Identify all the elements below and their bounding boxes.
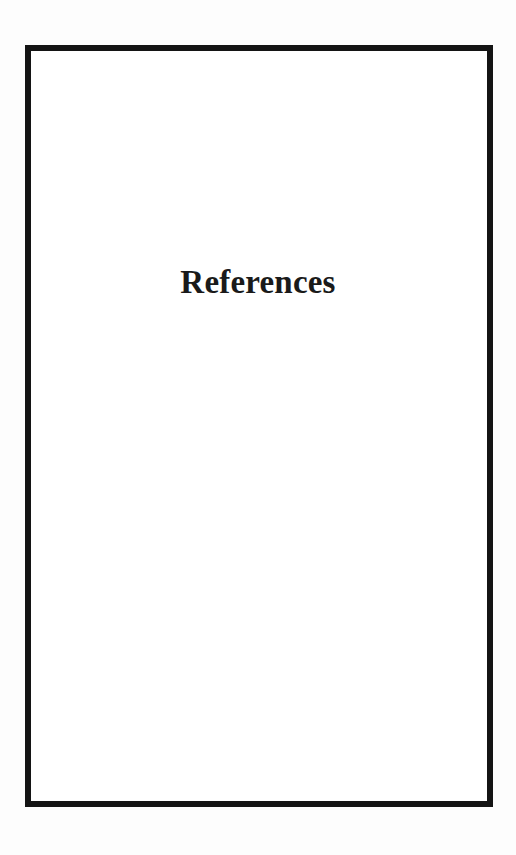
page-border-frame	[25, 45, 493, 807]
section-title: References	[0, 264, 516, 301]
